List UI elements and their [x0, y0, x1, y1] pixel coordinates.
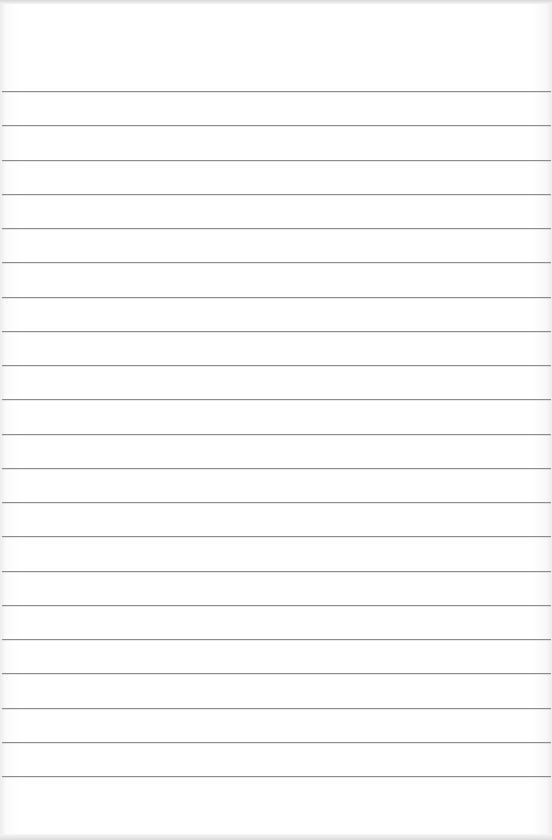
ruled-line	[2, 605, 551, 606]
ruled-line	[2, 776, 551, 777]
ruled-line	[2, 434, 551, 435]
ruled-line	[2, 228, 551, 229]
ruled-line	[2, 365, 551, 366]
ruled-paper-sheet	[0, 0, 552, 840]
ruled-line	[2, 742, 551, 743]
ruled-line	[2, 125, 551, 126]
ruled-line	[2, 399, 551, 400]
ruled-line	[2, 571, 551, 572]
ruled-line	[2, 536, 551, 537]
bottom-edge-shadow	[0, 834, 552, 840]
ruled-line	[2, 297, 551, 298]
ruled-line	[2, 194, 551, 195]
top-edge-shadow	[0, 0, 552, 4]
ruled-line	[2, 639, 551, 640]
ruled-line	[2, 673, 551, 674]
ruled-line	[2, 331, 551, 332]
ruled-line	[2, 502, 551, 503]
ruled-line	[2, 91, 551, 92]
ruled-line	[2, 468, 551, 469]
ruled-line	[2, 708, 551, 709]
ruled-line	[2, 160, 551, 161]
ruled-line	[2, 262, 551, 263]
